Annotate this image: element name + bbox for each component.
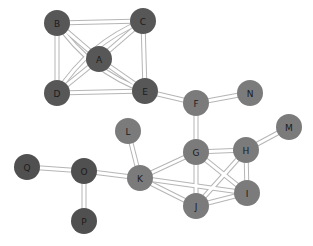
node-D: D <box>44 80 70 106</box>
node-label-M: M <box>285 123 293 133</box>
node-label-O: O <box>80 167 87 177</box>
edge-D-E <box>57 91 145 93</box>
node-label-B: B <box>54 19 60 29</box>
node-label-F: F <box>193 99 198 109</box>
node-H: H <box>233 137 259 163</box>
node-label-L: L <box>125 127 130 137</box>
node-O: O <box>71 158 97 184</box>
node-E: E <box>132 78 158 104</box>
node-A: A <box>86 46 112 72</box>
node-label-I: I <box>246 189 249 199</box>
node-L: L <box>115 118 141 144</box>
node-label-H: H <box>243 146 250 156</box>
node-label-E: E <box>142 87 148 97</box>
node-B: B <box>44 10 70 36</box>
node-I: I <box>234 180 260 206</box>
node-label-G: G <box>193 148 200 158</box>
node-label-P: P <box>81 217 87 227</box>
node-Q: Q <box>14 154 40 180</box>
node-F: F <box>183 90 209 116</box>
node-N: N <box>237 80 263 106</box>
node-label-Q: Q <box>23 163 30 173</box>
node-label-C: C <box>140 17 146 27</box>
graph-diagram: ABCDEFNMGHLKIJQOP <box>0 0 313 246</box>
node-J: J <box>183 193 209 219</box>
node-label-A: A <box>96 55 103 65</box>
node-P: P <box>71 208 97 234</box>
node-G: G <box>183 139 209 165</box>
node-label-D: D <box>54 89 61 99</box>
node-C: C <box>130 8 156 34</box>
node-label-J: J <box>194 202 198 212</box>
node-M: M <box>276 114 302 140</box>
node-K: K <box>127 165 153 191</box>
node-label-N: N <box>247 89 254 99</box>
